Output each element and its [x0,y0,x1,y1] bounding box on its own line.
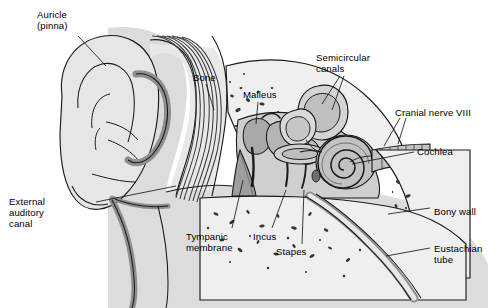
label-tympanic-membrane: Tympanic membrane [186,231,233,253]
label-eustachian-tube: Eustachian tube [434,243,482,265]
label-incus: Incus [253,231,276,242]
ear-anatomy-figure: Auricle (pinna) Bone Malleus Semicircula… [0,0,495,308]
label-malleus: Malleus [243,89,277,100]
label-cochlea: Cochlea [417,146,453,157]
label-bone: Bone [193,72,216,83]
label-auricle: Auricle (pinna) [37,9,68,31]
label-semicircular-canals: Semicircular canals [316,52,370,74]
label-cranial-nerve-viii: Cranial nerve VIII [395,107,471,118]
label-bony-wall: Bony wall [434,206,476,217]
label-external-auditory-canal: External auditory canal [9,196,45,230]
label-stapes: Stapes [276,246,306,257]
